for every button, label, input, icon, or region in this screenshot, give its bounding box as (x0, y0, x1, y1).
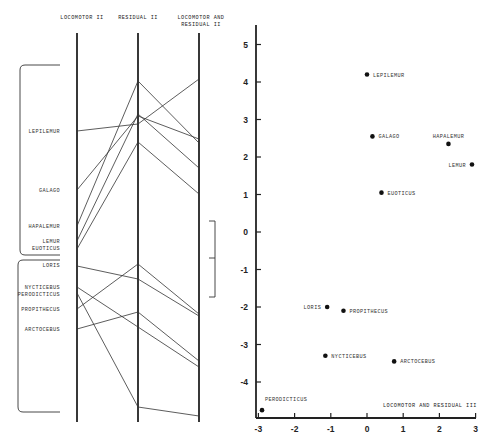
point-label: HAPALEMUR (433, 134, 465, 140)
point-label: LEMUR (448, 163, 466, 169)
scatter-plot: 543210-1-2-3-4-3-2-10123 LEPILEMURGALAGO… (240, 25, 478, 434)
x-tick-label: 3 (473, 424, 478, 434)
y-tick-label: 0 (243, 227, 248, 237)
y-tick-label: 1 (243, 190, 248, 200)
scatter-axes: 543210-1-2-3-4-3-2-10123 (240, 25, 478, 434)
taxon-label: ARCTOCEBUS (25, 327, 60, 333)
axis-header: RESIDUAL II (118, 15, 158, 21)
scatter-title: LOCOMOTOR AND RESIDUAL III (383, 403, 477, 409)
taxon-label: LEMUR (42, 239, 60, 245)
x-tick-label: -2 (291, 424, 299, 434)
taxon-label: HAPALEMUR (28, 224, 60, 230)
x-tick-label: 2 (437, 424, 442, 434)
point-label: LORIS (304, 305, 322, 311)
data-point (260, 408, 265, 413)
group-2-brace (18, 260, 60, 412)
point-label: EUOTICUS (387, 191, 415, 197)
parallel-axes (77, 33, 199, 422)
data-point (370, 134, 375, 139)
x-tick-label: -3 (255, 424, 263, 434)
y-tick-label: -1 (240, 265, 248, 275)
x-tick-label: 1 (401, 424, 406, 434)
axis-header: LOCOMOTOR AND (178, 15, 225, 21)
point-label: GALAGO (378, 134, 399, 140)
x-tick-label: 0 (365, 424, 370, 434)
y-tick-label: 4 (243, 77, 248, 87)
axis-header: RESIDUAL II (181, 22, 221, 28)
point-label: PROPITHECUS (349, 309, 388, 315)
cluster-bracket (209, 221, 215, 297)
point-label: PERODICTICUS (265, 397, 307, 403)
point-label: LEPILEMUR (373, 73, 405, 79)
data-point (379, 190, 384, 195)
y-tick-label: 5 (243, 40, 248, 50)
y-tick-label: -2 (240, 302, 248, 312)
figure-canvas: LOCOMOTOR IIRESIDUAL IILOCOMOTOR ANDRESI… (0, 0, 494, 447)
parallel-coordinates-plot: LOCOMOTOR IIRESIDUAL IILOCOMOTOR ANDRESI… (18, 15, 225, 422)
taxon-label: PROPITHECUS (21, 307, 60, 313)
axis-headers: LOCOMOTOR IIRESIDUAL IILOCOMOTOR ANDRESI… (60, 15, 224, 28)
data-point (392, 359, 397, 364)
point-label: ARCTOCEBUS (400, 359, 435, 365)
data-point (446, 142, 451, 147)
y-tick-label: 2 (243, 152, 248, 162)
taxon-label: LORIS (42, 263, 60, 269)
taxon-label: NYCTICEBUS (25, 285, 60, 291)
data-point (341, 308, 346, 313)
data-point (470, 162, 475, 167)
data-point (323, 353, 328, 358)
axis-header: LOCOMOTOR II (60, 15, 103, 21)
scatter-points: LEPILEMURGALAGOHAPALEMURLEMUREUOTICUSLOR… (260, 72, 475, 412)
taxon-labels: LEPILEMURGALAGOHAPALEMURLEMUREUOTICUSLOR… (18, 129, 60, 333)
taxon-label: LEPILEMUR (28, 129, 60, 135)
x-tick-label: -1 (327, 424, 335, 434)
taxon-label: PERODICTICUS (18, 292, 60, 298)
data-point (365, 72, 370, 77)
point-label: NYCTICEBUS (331, 354, 366, 360)
figure: LOCOMOTOR IIRESIDUAL IILOCOMOTOR ANDRESI… (0, 0, 494, 447)
taxon-label: EUOTICUS (32, 246, 60, 252)
y-tick-label: 3 (243, 115, 248, 125)
data-point (325, 305, 330, 310)
y-tick-label: -4 (240, 377, 248, 387)
y-tick-label: -3 (240, 340, 248, 350)
taxon-label: GALAGO (39, 188, 60, 194)
